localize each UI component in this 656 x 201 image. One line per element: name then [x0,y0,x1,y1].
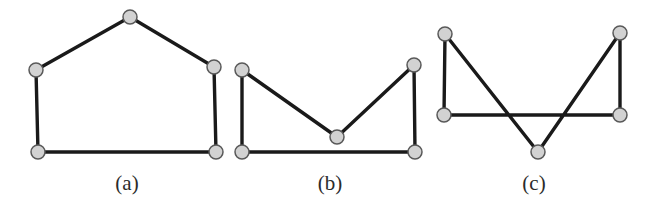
panel-b-vertex-top-right [407,58,421,72]
panel-b-vertex-bottom-left [235,145,249,159]
panel-c-vertex-mid-left [437,108,451,122]
panel-a-caption: (a) [115,171,138,195]
panel-b-vertex-top-left [235,63,249,77]
panel-a-vertex-lower-left [31,145,45,159]
panel-c-vertex-mid-right [613,108,627,122]
panel-a-vertex-lower-right [209,145,223,159]
captions-group: (a)(b)(c) [115,171,545,195]
panel-c-vertex-top-left [438,27,452,41]
panel-b-vertex-bottom-right [408,145,422,159]
panel-c-outline [444,33,620,152]
panel-b [235,58,422,159]
polygon-figure: (a)(b)(c) [0,0,656,201]
panel-a [29,10,223,159]
panel-c-vertex-bottom-apex [531,145,545,159]
panel-b-vertex-notch-bottom [330,130,344,144]
panel-b-caption: (b) [318,171,343,195]
panels-group [29,10,627,159]
panel-a-vertex-upper-right [207,60,221,74]
panel-b-outline [242,65,415,152]
figure-canvas: (a)(b)(c) [0,0,656,201]
panel-a-vertex-apex [123,10,137,24]
panel-c [437,26,627,159]
panel-a-vertex-upper-left [29,63,43,77]
panel-c-caption: (c) [522,171,545,195]
panel-c-vertex-top-right [613,26,627,40]
panel-a-outline [36,17,216,152]
